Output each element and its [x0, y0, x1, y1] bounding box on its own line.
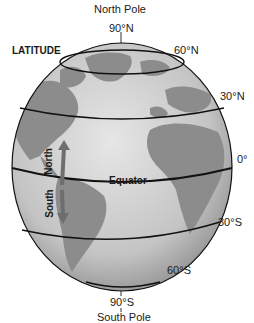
latitude-label-0: 0° — [237, 153, 248, 165]
north-pole-degree: 90°N — [109, 22, 134, 34]
latitude-label-60s: 60°S — [167, 264, 191, 276]
south-pole-degree: 90°S — [110, 296, 134, 308]
north-arrow-shaft — [62, 147, 64, 185]
south-arrow-label: South — [44, 189, 55, 217]
latitude-label-60n: 60°N — [174, 44, 199, 56]
south-pole-label: South Pole — [97, 311, 151, 323]
north-arrow-label: North — [43, 148, 54, 175]
north-pole-label: North Pole — [94, 3, 146, 15]
south-arrow-shaft — [62, 190, 63, 216]
diagram-title: LATITUDE — [12, 45, 61, 57]
latitude-label-30s: 30°S — [218, 216, 242, 228]
equator-label: Equator — [109, 175, 147, 187]
latitude-label-30n: 30°N — [220, 90, 245, 102]
